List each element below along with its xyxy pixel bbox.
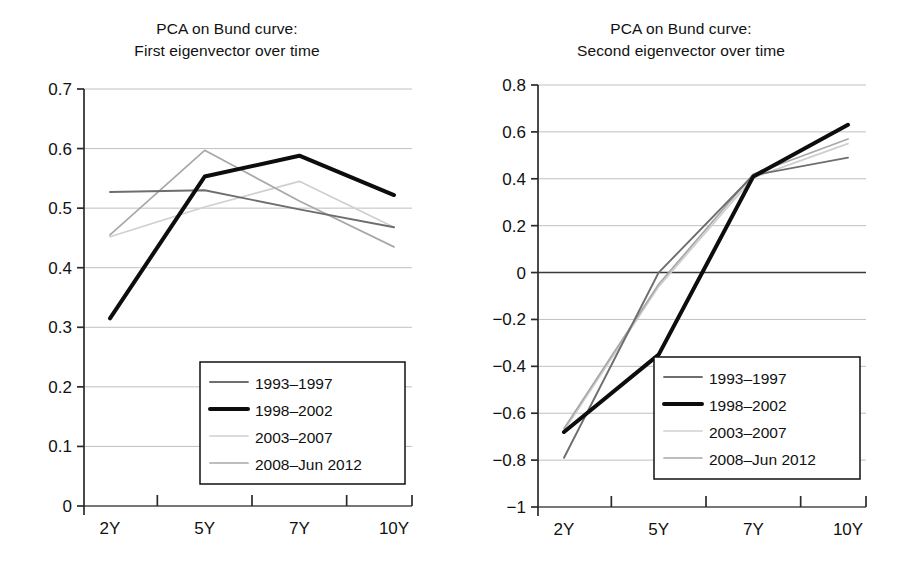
x-tick-label: 2Y: [554, 520, 575, 539]
legend-label-2008-Jun 2012: 2008–Jun 2012: [255, 456, 362, 473]
y-tick-label: 0.6: [48, 140, 72, 159]
legend-label-1998-2002: 1998–2002: [255, 402, 333, 419]
y-tick-label: 0.6: [502, 123, 526, 142]
y-tick-label: −0.8: [492, 451, 526, 470]
y-tick-label: −0.4: [492, 357, 526, 376]
y-tick-label: 0.4: [502, 170, 526, 189]
y-tick-label: 0.3: [48, 318, 72, 337]
chart-panel-first-eigenvector: PCA on Bund curve: First eigenvector ove…: [0, 0, 454, 570]
y-tick-label: 0.5: [48, 199, 72, 218]
x-tick-label: 5Y: [648, 520, 669, 539]
plot-area-first: 00.10.20.30.40.50.60.72Y5Y7Y10Y1993–1997…: [0, 0, 454, 570]
chart-panel-second-eigenvector: PCA on Bund curve: Second eigenvector ov…: [454, 0, 908, 570]
chart-svg-second: −1−0.8−0.6−0.4−0.200.20.40.60.82Y5Y7Y10Y…: [454, 0, 908, 570]
y-tick-label: 0: [517, 264, 526, 283]
x-tick-label: 10Y: [379, 519, 409, 538]
series-line-1998-2002: [110, 156, 394, 319]
y-tick-label: 0: [63, 497, 72, 516]
legend-label-2003-2007: 2003–2007: [255, 429, 333, 446]
y-tick-label: 0.8: [502, 76, 526, 95]
x-tick-label: 5Y: [194, 519, 215, 538]
x-tick-label: 2Y: [100, 519, 121, 538]
y-tick-label: −1: [507, 498, 526, 517]
chart-svg-first: 00.10.20.30.40.50.60.72Y5Y7Y10Y1993–1997…: [0, 0, 454, 570]
legend-label-1993-1997: 1993–1997: [709, 370, 787, 387]
figure-root: PCA on Bund curve: First eigenvector ove…: [0, 0, 908, 570]
plot-area-second: −1−0.8−0.6−0.4−0.200.20.40.60.82Y5Y7Y10Y…: [454, 0, 908, 570]
x-tick-label: 7Y: [289, 519, 310, 538]
y-tick-label: −0.2: [492, 310, 526, 329]
legend-label-1998-2002: 1998–2002: [709, 397, 787, 414]
y-tick-label: −0.6: [492, 404, 526, 423]
legend-label-2003-2007: 2003–2007: [709, 424, 787, 441]
y-tick-label: 0.7: [48, 80, 72, 99]
legend-label-1993-1997: 1993–1997: [255, 375, 333, 392]
y-tick-label: 0.4: [48, 259, 72, 278]
x-tick-label: 7Y: [743, 520, 764, 539]
legend-label-2008-Jun 2012: 2008–Jun 2012: [709, 451, 816, 468]
y-tick-label: 0.2: [48, 378, 72, 397]
y-tick-label: 0.2: [502, 217, 526, 236]
series-line-2003-2007: [110, 181, 394, 236]
x-tick-label: 10Y: [833, 520, 863, 539]
y-tick-label: 0.1: [48, 437, 72, 456]
